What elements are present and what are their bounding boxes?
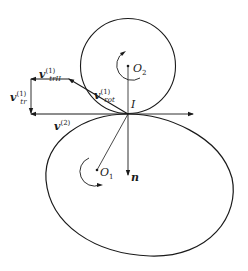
contact-diagram [0,0,248,271]
o1-letter: O [100,166,109,179]
rotation-arrow-o1-icon [80,158,100,186]
v2-sup: (2) [60,119,70,127]
label-v-trII: v(1)trII [39,65,61,81]
v-rot-sup: (1) [100,88,110,96]
o2-subscript: 2 [142,69,146,77]
label-v2: v(2) [54,117,70,133]
v-tr-sup: (1) [16,90,26,98]
rotation-arrowhead-o1-icon [97,183,103,187]
v-rot-sub: rot [104,96,114,104]
label-i: I [131,99,135,110]
v-trII-sub: trII [49,75,61,83]
o1-subscript: 1 [109,173,113,181]
label-n: n [131,168,139,184]
label-o2: O2 [133,59,147,75]
label-o1: O1 [100,163,114,179]
label-v-tr: v(1)tr [10,88,27,104]
v-trII-sup: (1) [45,67,55,75]
label-v-rot: v(1)rot [94,86,115,102]
rotation-arrowhead-o2-icon [120,51,126,56]
lower-cam-body [46,114,233,256]
o1-to-i-line [97,114,128,170]
n-symbol: n [131,171,139,184]
v-tr-sub: tr [20,98,26,106]
o2-letter: O [133,62,142,75]
